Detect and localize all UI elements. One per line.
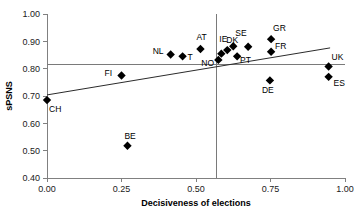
x-axis-title: Decisiveness of elections — [141, 198, 251, 208]
data-point-marker[interactable] — [123, 142, 131, 150]
data-point-label: AT — [196, 32, 206, 42]
data-point-marker[interactable] — [196, 45, 204, 53]
data-point-label: NL — [153, 46, 164, 56]
y-axis-tick-label: 1.00 — [22, 9, 40, 19]
data-point-label: FR — [275, 41, 286, 51]
data-point-label: ES — [334, 78, 346, 88]
y-axis-tick-label: 0.40 — [22, 173, 40, 183]
data-point-marker[interactable] — [244, 43, 252, 51]
data-point-marker[interactable] — [324, 73, 332, 81]
y-axis-tick-label: 0.90 — [22, 37, 40, 47]
scatter-chart: 0.400.500.600.700.800.901.000.000.250.50… — [0, 0, 357, 219]
x-axis-tick-label: 0.25 — [113, 184, 131, 194]
data-point-label: GR — [273, 23, 286, 33]
data-point-marker[interactable] — [178, 52, 186, 60]
data-point-marker[interactable] — [266, 76, 274, 84]
y-axis-tick-label: 0.60 — [22, 119, 40, 129]
data-point-label: BE — [124, 131, 136, 141]
data-point-marker[interactable] — [43, 96, 51, 104]
data-point-label: FI — [105, 68, 113, 78]
data-point-marker[interactable] — [267, 35, 275, 43]
y-axis-tick-label: 0.50 — [22, 146, 40, 156]
x-axis-tick-label: 0.75 — [262, 184, 280, 194]
data-point-label: CH — [49, 104, 61, 114]
data-point-label: PT — [240, 55, 251, 65]
y-axis-title: sPSNS — [4, 81, 14, 111]
data-points-group: CHBEFINLTATNOIEDKSEPTGRFRDEUKES — [43, 23, 345, 150]
data-point-marker[interactable] — [166, 50, 174, 58]
x-axis-tick-label: 0.00 — [38, 184, 56, 194]
data-point-label: DE — [262, 85, 274, 95]
data-point-label: SE — [235, 28, 247, 38]
plot-area: 0.400.500.600.700.800.901.000.000.250.50… — [0, 0, 357, 219]
y-axis-tick-label: 0.80 — [22, 64, 40, 74]
y-axis-tick-label: 0.70 — [22, 91, 40, 101]
data-point-label: T — [188, 52, 193, 62]
x-axis-tick-label: 1.00 — [336, 184, 354, 194]
x-axis-tick-label: 0.50 — [187, 184, 205, 194]
data-point-label: UK — [332, 52, 344, 62]
data-point-marker[interactable] — [117, 71, 125, 79]
data-point-marker[interactable] — [267, 48, 275, 56]
data-point-label: NO — [201, 58, 214, 68]
data-point-marker[interactable] — [324, 62, 332, 70]
